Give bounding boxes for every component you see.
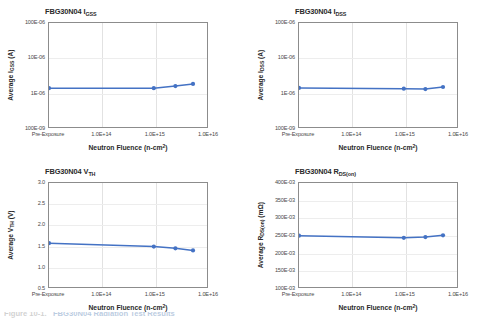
data-point xyxy=(402,236,406,240)
data-point xyxy=(402,87,406,91)
data-point xyxy=(298,86,301,90)
data-point xyxy=(173,246,177,250)
x-axis-title-vth: Neutron Fluence (n-cm2) xyxy=(48,303,208,311)
y-axis-title-vth: Average VTH (V) xyxy=(7,182,15,288)
series-rdson xyxy=(299,183,458,288)
data-point xyxy=(423,87,427,91)
x-axis-title-main: Neutron Fluence (n-cm xyxy=(88,144,162,151)
data-point xyxy=(152,86,156,90)
y-axis-title-main: Average R xyxy=(257,236,264,268)
y-axis-title-rdson: Average RDS(on) (mΩ) xyxy=(257,182,265,288)
x-tick-label: Pre-Exposure xyxy=(32,291,64,297)
x-axis-title-idss: Neutron Fluence (n-cm2) xyxy=(298,143,458,151)
x-tick-label: 1.0E+14 xyxy=(91,131,111,137)
chart-grid: FBG30N04 IGSS100E-0610E-061E-06100E-09Pr… xyxy=(0,0,497,321)
data-point xyxy=(423,235,427,239)
x-axis-title-tail: ) xyxy=(165,144,167,151)
plot-area-idss xyxy=(298,22,458,128)
y-axis-title-subscript: GSS xyxy=(9,61,15,72)
data-point xyxy=(48,241,51,245)
plot-area-igss xyxy=(48,22,208,128)
x-tick-label: 1.0E+16 xyxy=(198,291,218,297)
x-tick-label: Pre-Exposure xyxy=(282,291,314,297)
x-axis-title-igss: Neutron Fluence (n-cm2) xyxy=(48,143,208,151)
data-point xyxy=(191,82,195,86)
y-axis-title-units: (A) xyxy=(7,50,14,61)
y-axis-title-units: (mΩ) xyxy=(257,202,264,219)
plot-area-vth xyxy=(48,182,208,288)
x-tick-label: 1.0E+15 xyxy=(395,131,415,137)
series-line xyxy=(49,243,193,250)
chart-title-main: FBG30N04 I xyxy=(45,7,86,16)
y-axis-title-subscript: DSS xyxy=(259,61,265,71)
x-axis-title-tail: ) xyxy=(415,304,417,311)
panel-rdson: FBG30N04 RDS(on)400E-03350E-03300E-03250… xyxy=(250,160,497,321)
panel-vth: FBG30N04 VTH3.02.52.01.51.00.5Pre-Exposu… xyxy=(0,160,250,321)
chart-title-subscript: DS(on) xyxy=(339,171,356,177)
data-point xyxy=(48,86,51,90)
figure-caption-strip: Figure 10-1. FBG30N04 Radiation Test Res… xyxy=(0,312,497,321)
chart-title-subscript: TH xyxy=(88,171,95,177)
figure-caption: Figure 10-1. FBG30N04 Radiation Test Res… xyxy=(4,312,175,318)
data-point xyxy=(441,233,445,237)
series-line xyxy=(299,87,443,89)
data-point xyxy=(191,248,195,252)
chart-title-vth: FBG30N04 VTH xyxy=(45,167,95,177)
y-axis-title-idss: Average IDSS (A) xyxy=(257,22,265,128)
y-axis-title-main: Average I xyxy=(7,71,14,100)
x-tick-label: 1.0E+15 xyxy=(395,291,415,297)
panel-idss: FBG30N04 IDSS100E-0610E-061E-06100E-09Pr… xyxy=(250,0,497,160)
series-line xyxy=(49,84,193,88)
series-idss xyxy=(299,23,458,128)
x-tick-label: 1.0E+16 xyxy=(198,131,218,137)
x-axis-title-rdson: Neutron Fluence (n-cm2) xyxy=(298,303,458,311)
y-axis-title-main: Average I xyxy=(257,71,264,100)
y-axis-title-units: (A) xyxy=(257,50,264,61)
y-axis-title-igss: Average IGSS (A) xyxy=(7,22,15,128)
x-tick-label: 1.0E+14 xyxy=(91,291,111,297)
data-point xyxy=(173,84,177,88)
x-axis-title-main: Neutron Fluence (n-cm xyxy=(338,304,412,311)
x-tick-label: 1.0E+16 xyxy=(448,291,468,297)
x-tick-label: 1.0E+16 xyxy=(448,131,468,137)
figure-caption-prefix: Figure 10-1. xyxy=(4,312,47,318)
series-igss xyxy=(49,23,208,128)
x-axis-title-tail: ) xyxy=(165,304,167,311)
x-tick-label: Pre-Exposure xyxy=(32,131,64,137)
panel-igss: FBG30N04 IGSS100E-0610E-061E-06100E-09Pr… xyxy=(0,0,250,160)
figure-page: { "figure": { "caption": "Figure 10-1. F… xyxy=(0,0,497,321)
x-tick-label: 1.0E+14 xyxy=(341,291,361,297)
data-point xyxy=(298,234,301,238)
x-axis-title-main: Neutron Fluence (n-cm xyxy=(338,144,412,151)
plot-area-rdson xyxy=(298,182,458,288)
chart-title-rdson: FBG30N04 RDS(on) xyxy=(295,167,356,177)
chart-title-subscript: DSS xyxy=(336,11,347,17)
x-tick-label: 1.0E+15 xyxy=(145,131,165,137)
chart-title-main: FBG30N04 V xyxy=(45,167,88,176)
y-axis-title-subscript: TH xyxy=(9,221,15,228)
x-tick-label: Pre-Exposure xyxy=(282,131,314,137)
chart-title-main: FBG30N04 R xyxy=(295,167,339,176)
x-axis-title-main: Neutron Fluence (n-cm xyxy=(88,304,162,311)
chart-title-idss: FBG30N04 IDSS xyxy=(295,7,346,17)
y-axis-title-main: Average V xyxy=(7,228,14,260)
figure-caption-rest: FBG30N04 Radiation Test Results xyxy=(53,312,175,318)
chart-title-main: FBG30N04 I xyxy=(295,7,336,16)
series-line xyxy=(299,235,443,238)
y-axis-title-subscript: DS(on) xyxy=(259,219,265,235)
series-vth xyxy=(49,183,208,288)
chart-title-igss: FBG30N04 IGSS xyxy=(45,7,97,17)
x-tick-label: 1.0E+14 xyxy=(341,131,361,137)
chart-title-subscript: GSS xyxy=(86,11,97,17)
x-tick-label: 1.0E+15 xyxy=(145,291,165,297)
x-axis-title-tail: ) xyxy=(415,144,417,151)
data-point xyxy=(152,245,156,249)
data-point xyxy=(441,85,445,89)
y-axis-title-units: (V) xyxy=(7,210,14,221)
